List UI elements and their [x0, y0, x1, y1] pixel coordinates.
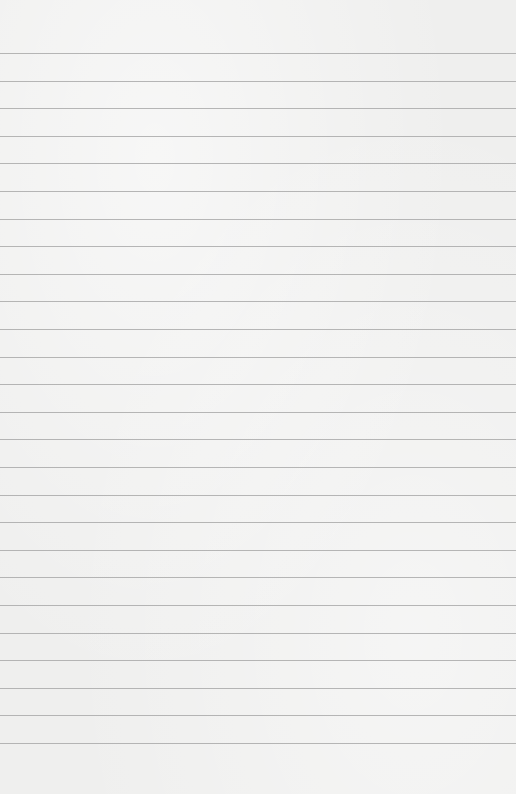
- ruled-line: [0, 246, 516, 247]
- ruled-line: [0, 81, 516, 82]
- ruled-line: [0, 163, 516, 164]
- ruled-line: [0, 357, 516, 358]
- ruled-line: [0, 439, 516, 440]
- ruled-line: [0, 108, 516, 109]
- ruled-line: [0, 301, 516, 302]
- ruled-line: [0, 219, 516, 220]
- ruled-line: [0, 688, 516, 689]
- ruled-line: [0, 467, 516, 468]
- ruled-line: [0, 53, 516, 54]
- ruled-line: [0, 495, 516, 496]
- ruled-line: [0, 384, 516, 385]
- ruled-line: [0, 191, 516, 192]
- ruled-line: [0, 605, 516, 606]
- ruled-line: [0, 329, 516, 330]
- ruled-line: [0, 522, 516, 523]
- ruled-line: [0, 577, 516, 578]
- ruled-line: [0, 274, 516, 275]
- ruled-line: [0, 633, 516, 634]
- ruled-line: [0, 136, 516, 137]
- ruled-line: [0, 743, 516, 744]
- ruled-line: [0, 660, 516, 661]
- lined-paper: [0, 0, 516, 794]
- ruled-line: [0, 715, 516, 716]
- ruled-line: [0, 550, 516, 551]
- ruled-line: [0, 412, 516, 413]
